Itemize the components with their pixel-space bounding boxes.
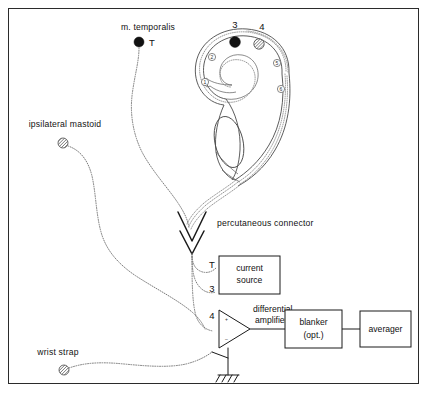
cochlea-electrode-2[interactable]: 2	[208, 53, 215, 60]
ground-symbol	[216, 348, 239, 382]
wire-m-temporalis	[131, 48, 189, 228]
cochlea-electrode-5-label: 5	[276, 60, 279, 66]
cochlea-electrode-6[interactable]: 6	[277, 85, 284, 92]
differential-amplifier-input-4: 4	[209, 310, 214, 321]
cochlea-electrode-1-label: 1	[204, 79, 207, 85]
diagram-stage: 1 2 3 4 5 6 m. temporalis T ipsilateral …	[0, 0, 429, 401]
cochlea-electrode-2-label: 2	[211, 54, 214, 60]
electrode-array-cable	[187, 31, 288, 229]
cochlea-electrode-4-label: 4	[259, 21, 264, 32]
current-source-line2: source	[237, 275, 263, 285]
wrist-strap-electrode[interactable]	[59, 365, 69, 375]
blanker-line2: (opt.)	[303, 330, 323, 340]
current-source-input-T: T	[209, 259, 215, 270]
cochlea-electrode-1[interactable]: 1	[201, 78, 208, 85]
ipsilateral-mastoid-label: ipsilateral mastoid	[29, 119, 102, 129]
percutaneous-connector-symbol[interactable]	[178, 212, 206, 254]
cochlea-illustration	[195, 29, 290, 186]
wire-ground-to-wrist	[212, 352, 228, 358]
cochlea-electrode-5[interactable]: 5	[273, 59, 280, 66]
m-temporalis-label: m. temporalis	[121, 22, 175, 32]
cochlea-electrode-6-label: 6	[280, 86, 283, 92]
differential-amplifier-symbol[interactable]: + –	[219, 310, 250, 348]
wire-wrist-strap	[69, 352, 212, 368]
averager-line1: averager	[369, 324, 403, 334]
wire-ipsilateral-mastoid	[68, 146, 205, 329]
amplifier-minus-sign: –	[225, 336, 228, 342]
blanker-line1: blanker	[299, 317, 327, 327]
current-source-line1: current	[236, 263, 263, 273]
percutaneous-connector-label: percutaneous connector	[217, 218, 314, 228]
amplifier-plus-sign: +	[225, 316, 228, 322]
m-temporalis-marker-label: T	[149, 37, 155, 48]
differential-amplifier-line2: amplifier	[255, 315, 288, 325]
blanker-box[interactable]	[285, 310, 342, 348]
cochlea-electrode-3-label: 3	[232, 19, 237, 30]
wrist-strap-label: wrist strap	[36, 347, 78, 357]
m-temporalis-electrode[interactable]	[134, 37, 144, 47]
diagram-svg: 1 2 3 4 5 6 m. temporalis T ipsilateral …	[0, 0, 429, 401]
ipsilateral-mastoid-electrode[interactable]	[58, 138, 68, 148]
current-source-input-3: 3	[209, 283, 214, 294]
